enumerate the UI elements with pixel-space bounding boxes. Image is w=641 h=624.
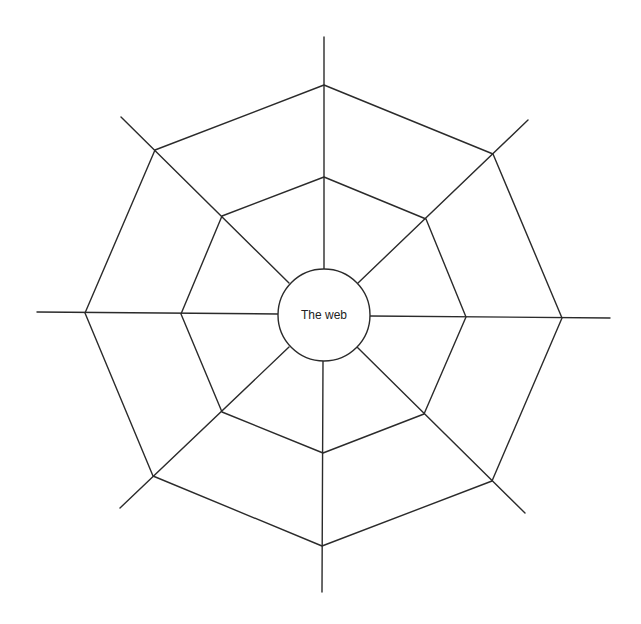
web-spoke [322,361,323,592]
web-spoke [370,316,610,318]
web-spoke [37,312,278,314]
hub-label: The web [278,303,370,327]
